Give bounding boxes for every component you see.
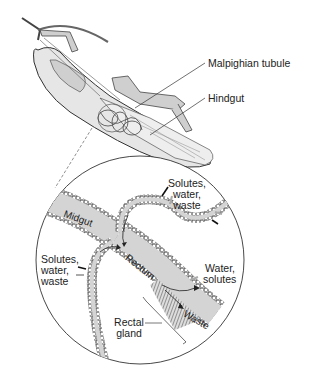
label-malpighian-tubule: Malpighian tubule — [208, 58, 290, 69]
label-water-solutes: Water, solutes — [203, 263, 235, 285]
text-line: waste — [41, 276, 79, 287]
label-rectal-gland: Rectal gland — [112, 317, 146, 339]
grasshopper-illustration — [22, 18, 213, 167]
text-line: solutes — [203, 274, 235, 285]
label-solutes-top: Solutes, water, waste — [167, 178, 207, 211]
text-line: gland — [112, 328, 146, 339]
text-line: waste — [167, 200, 207, 211]
label-hindgut: Hindgut — [208, 93, 244, 104]
label-solutes-left: Solutes, water, waste — [41, 254, 79, 287]
